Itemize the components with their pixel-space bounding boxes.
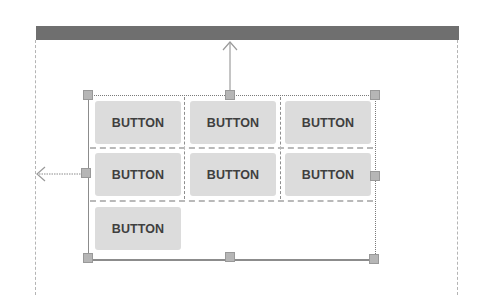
resize-handle-top-left[interactable] [83, 90, 93, 100]
button-r2-c1[interactable]: BUTTON [95, 153, 181, 196]
button-r2-c3[interactable]: BUTTON [285, 153, 371, 196]
button-r2-c2[interactable]: BUTTON [190, 153, 276, 196]
button-r3-c1[interactable]: BUTTON [95, 207, 181, 250]
parent-left-guide [35, 40, 36, 295]
button-r1-c3[interactable]: BUTTON [285, 101, 371, 144]
row-divider-1 [90, 147, 373, 149]
resize-handle-top-right[interactable] [370, 90, 380, 100]
parent-right-guide [457, 40, 458, 295]
button-r1-c2[interactable]: BUTTON [190, 101, 276, 144]
resize-handle-top-center[interactable] [225, 90, 235, 100]
constraint-arrow-left-icon [37, 167, 83, 181]
resize-handle-right-middle[interactable] [370, 171, 380, 181]
button-r1-c1[interactable]: BUTTON [95, 101, 181, 144]
resize-handle-bottom-right[interactable] [369, 254, 379, 264]
parent-top-bar [36, 26, 459, 40]
resize-handle-bottom-center[interactable] [225, 252, 235, 262]
resize-handle-left-middle[interactable] [81, 168, 91, 178]
constraint-arrow-up-icon [223, 42, 237, 91]
resize-handle-bottom-left[interactable] [83, 253, 93, 263]
row-divider-2 [90, 200, 373, 202]
